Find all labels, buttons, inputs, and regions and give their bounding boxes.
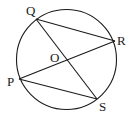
label-o-center: O bbox=[50, 50, 59, 65]
diameter-qs bbox=[36, 19, 97, 99]
label-p: P bbox=[7, 74, 14, 89]
label-q: Q bbox=[26, 3, 36, 18]
label-s: S bbox=[99, 99, 106, 114]
chord-ps bbox=[19, 79, 97, 99]
circle-diagram: Q R P S O bbox=[0, 0, 129, 114]
chord-qr bbox=[36, 19, 115, 41]
diameter-pr bbox=[19, 41, 115, 79]
label-r: R bbox=[117, 33, 126, 48]
